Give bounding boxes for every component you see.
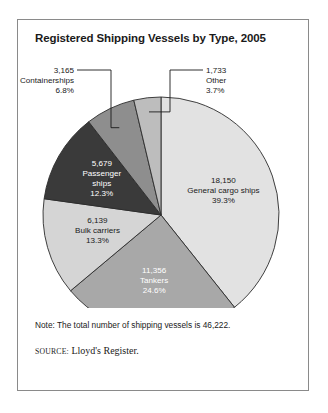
figure-panel: Registered Shipping Vessels by Type, 200… [17,19,309,391]
pie-chart: 18,150General cargo ships39.3%11,356Tank… [18,56,308,308]
chart-title: Registered Shipping Vessels by Type, 200… [35,32,266,44]
pie-chart-svg: 18,150General cargo ships39.3%11,356Tank… [18,56,308,308]
footnotes: Note: The total number of shipping vesse… [35,320,293,357]
callout-label-containerships: 3,165Containerships6.8% [20,66,74,95]
source-text: Lloyd's Register. [71,345,138,356]
callout-label-other: 1,733Other3.7% [206,66,227,95]
source-kicker: SOURCE: [35,347,69,356]
slice-label-tankers: 11,356Tankers24.6% [140,266,168,295]
chart-source: SOURCE: Lloyd's Register. [35,344,293,357]
chart-note: Note: The total number of shipping vesse… [35,320,293,331]
